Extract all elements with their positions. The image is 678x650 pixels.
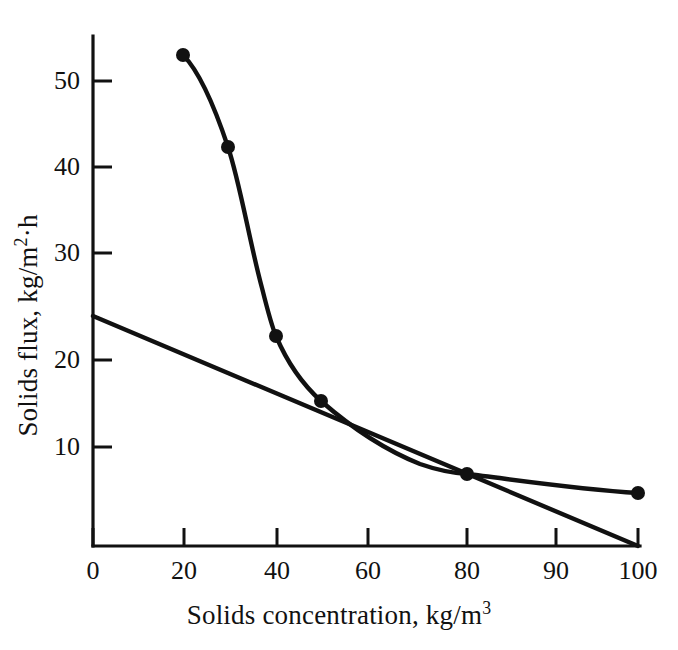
x-axis-title: Solids concentration, kg/m3 xyxy=(0,600,678,631)
y-axis-title-exponent: 2 xyxy=(11,237,31,246)
x-tick-label-0: 0 xyxy=(87,558,100,584)
x-axis-ticks xyxy=(93,528,638,546)
x-tick-label-20: 20 xyxy=(171,558,197,584)
axis-lines xyxy=(93,36,640,546)
x-axis-title-exponent: 3 xyxy=(482,598,491,618)
data-point-100 xyxy=(631,486,645,500)
solids-flux-curve-series xyxy=(183,55,638,493)
data-point-50 xyxy=(314,394,328,408)
data-point-40 xyxy=(269,329,283,343)
solids-flux-chart: 50 40 30 20 10 0 20 40 60 80 90 100 Soli… xyxy=(0,0,678,650)
y-axis-ticks xyxy=(93,81,112,447)
data-point-markers xyxy=(176,48,645,500)
x-tick-label-90: 90 xyxy=(543,558,569,584)
y-axis-title: Solids flux, kg/m2·h xyxy=(13,66,44,586)
y-axis-title-text: Solids flux, kg/m xyxy=(13,246,43,436)
chart-plot-area xyxy=(0,0,678,650)
x-tick-label-60: 60 xyxy=(355,558,381,584)
y-axis-title-suffix: ·h xyxy=(13,214,43,237)
x-tick-label-40: 40 xyxy=(264,558,290,584)
x-tick-label-80: 80 xyxy=(454,558,480,584)
data-point-80 xyxy=(460,467,474,481)
data-point-20 xyxy=(176,48,190,62)
x-axis-title-text: Solids concentration, kg/m xyxy=(187,600,482,630)
x-tick-label-100: 100 xyxy=(619,558,658,584)
operating-line-series xyxy=(93,316,638,546)
data-point-29 xyxy=(221,140,235,154)
